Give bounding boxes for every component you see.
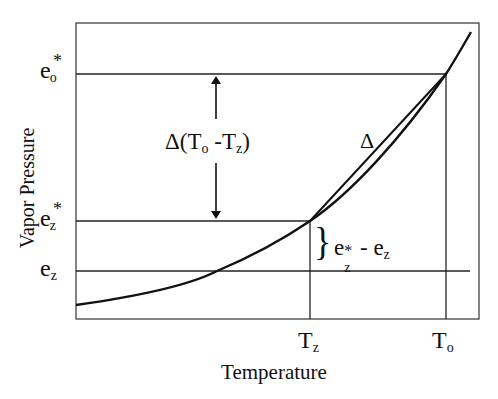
delta-t-label: Δ(To -Tz)	[165, 130, 250, 156]
tick-ez-star: ez*	[40, 206, 56, 233]
tick-eo-star: eo*	[40, 58, 57, 85]
x-axis-label: Temperature	[221, 362, 327, 383]
plot-frame	[76, 23, 479, 319]
bracket-label: e*z - ez	[334, 236, 390, 262]
saturation-curve	[76, 32, 471, 305]
curly-brace: }	[314, 222, 331, 262]
delta-label: Δ	[360, 130, 374, 152]
tick-to: To	[432, 328, 454, 355]
diagram-canvas	[0, 0, 498, 399]
y-axis-label: Vapor Pressure	[17, 128, 37, 249]
tick-ez: ez	[40, 256, 57, 283]
tick-tz: Tz	[298, 328, 319, 355]
chord-line	[310, 74, 446, 221]
